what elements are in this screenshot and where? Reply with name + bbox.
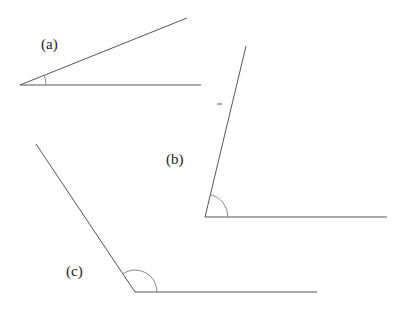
angle-b-label: (b) (166, 151, 184, 168)
angle-a: (a) (20, 18, 201, 85)
angle-b-arc (210, 195, 228, 217)
angle-c-label: (c) (66, 263, 83, 280)
angle-b-arm-ray (205, 46, 246, 217)
angle-c-arm-ray (36, 144, 135, 292)
angle-a-label: (a) (41, 36, 58, 53)
angle-b: (b) (166, 46, 387, 217)
angle-a-arc (44, 75, 46, 85)
angles-diagram: (a) (b) (c) (0, 0, 406, 310)
